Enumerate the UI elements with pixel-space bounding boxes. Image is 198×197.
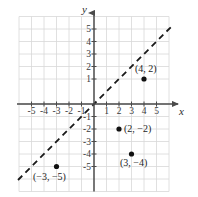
y-tick-label-5: 5 (80, 25, 91, 35)
x-tick-label-neg4: -4 (38, 107, 51, 117)
data-point-n3-n5 (54, 164, 59, 169)
x-tick-label-4: 4 (138, 107, 150, 117)
coordinate-plane-figure: y x -5 -4 -3 -2 -1 1 2 3 4 5 5 4 3 2 1 -… (0, 0, 198, 197)
y-tick-label-neg5: -5 (78, 163, 91, 173)
point-label-4-2: (4, 2) (135, 64, 157, 74)
x-tick-label-neg3: -3 (50, 107, 63, 117)
x-tick-label-neg5: -5 (25, 107, 38, 117)
point-label-3-neg4: (3, −4) (120, 158, 147, 168)
y-tick-label-1: 1 (80, 75, 91, 85)
data-point-4-2 (141, 76, 146, 81)
x-tick-label-1: 1 (101, 107, 113, 117)
y-tick-label-neg2: -2 (78, 125, 91, 135)
data-point-3-n4 (129, 151, 134, 156)
y-tick-label-3: 3 (80, 50, 91, 60)
y-tick-label-neg4: -4 (78, 150, 91, 160)
x-tick-label-5: 5 (151, 107, 163, 117)
y-tick-label-neg3: -3 (78, 138, 91, 148)
dashed-line-y-equals-x (18, 26, 172, 180)
y-tick-label-4: 4 (80, 38, 91, 48)
y-axis-label: y (82, 4, 87, 15)
point-label-neg3-neg5: (−3, −5) (33, 172, 66, 182)
x-axis-label: x (179, 106, 184, 117)
x-tick-label-3: 3 (126, 107, 138, 117)
x-tick-label-2: 2 (113, 107, 125, 117)
y-tick-label-neg1: -1 (78, 113, 91, 123)
x-tick-label-neg2: -2 (63, 107, 76, 117)
y-tick-label-2: 2 (80, 63, 91, 73)
graph-canvas (0, 0, 198, 197)
point-label-2-neg2: (2, −2) (124, 124, 151, 134)
data-point-2-n2 (116, 126, 121, 131)
